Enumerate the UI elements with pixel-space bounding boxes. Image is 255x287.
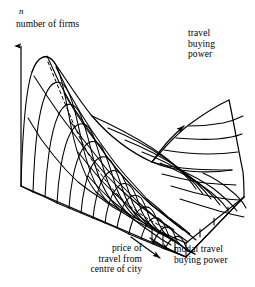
travel-buying-power-line-3: power [188, 49, 215, 60]
surface-plot-figure: n number of firms travel buying power pr… [0, 0, 255, 287]
price-of-travel-line-2: travel from [52, 254, 142, 265]
price-of-travel-line-3: centre of city [52, 264, 142, 275]
mesh-cross-5 [164, 150, 238, 154]
price-of-travel-line-1: price of [52, 243, 142, 254]
modal-travel-buying-power-line-2: buying power [174, 255, 254, 266]
surface-right-boundary [152, 100, 229, 162]
surface-right-edge [229, 100, 244, 197]
mesh-cross-7 [189, 116, 243, 126]
travel-buying-power-line-1: travel [188, 28, 215, 39]
mesh-cross-6 [176, 134, 242, 139]
travel-buying-power-line-2: buying [188, 39, 215, 50]
modal-travel-buying-power-label: modal travel buying power [174, 244, 254, 265]
surface-back-boundary [32, 57, 232, 172]
price-of-travel-label: price of travel from centre of city [52, 243, 142, 275]
vertical-axis-symbol: n [19, 6, 24, 17]
vertical-axis-label: number of firms [16, 19, 79, 30]
travel-buying-power-label: travel buying power [188, 28, 215, 60]
modal-travel-buying-power-line-1: modal travel [174, 244, 254, 255]
